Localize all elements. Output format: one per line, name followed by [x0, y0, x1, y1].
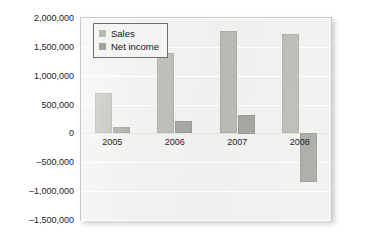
bar-net-income-2005	[113, 127, 130, 134]
gridline--1000000	[81, 191, 331, 192]
legend-label: Net income	[111, 41, 159, 52]
gridline-2000000	[81, 18, 331, 19]
y-axis-tick-label: 1,500,000	[0, 42, 74, 52]
y-axis-tick-label: 500,000	[0, 100, 74, 110]
bar-sales-2005	[95, 93, 112, 133]
chart-legend: SalesNet income	[93, 23, 168, 58]
gridline-0	[81, 133, 331, 134]
legend-swatch-icon	[99, 30, 106, 37]
gridline--1500000	[81, 220, 331, 221]
x-axis-tick-label-2005: 2005	[87, 137, 137, 148]
x-axis-tick-label-2006: 2006	[150, 137, 200, 148]
legend-label: Sales	[111, 28, 135, 39]
x-axis-tick-label-2007: 2007	[212, 137, 262, 148]
legend-swatch-icon	[99, 43, 106, 50]
y-axis-tick-label: 1,000,000	[0, 71, 74, 81]
bar-net-income-2006	[175, 121, 192, 134]
plot-area: SalesNet income	[80, 17, 332, 221]
bar-net-income-2007	[238, 115, 255, 134]
x-axis-tick-label-2008: 2008	[275, 137, 325, 148]
y-axis-tick-label: –500,000	[0, 157, 74, 167]
bar-sales-2008	[282, 34, 299, 133]
legend-item-sales: Sales	[99, 27, 159, 40]
y-axis-tick-label: –1,000,000	[0, 186, 74, 196]
bar-sales-2007	[220, 31, 237, 134]
legend-item-net-income: Net income	[99, 40, 159, 53]
gridline--500000	[81, 162, 331, 163]
bar-chart-figure: 2,000,0001,500,0001,000,000500,0000–500,…	[0, 0, 378, 250]
y-axis-tick-label: 0	[0, 128, 74, 138]
y-axis-tick-label: –1,500,000	[0, 215, 74, 225]
y-axis-tick-label: 2,000,000	[0, 13, 74, 23]
bar-sales-2006	[157, 53, 174, 134]
